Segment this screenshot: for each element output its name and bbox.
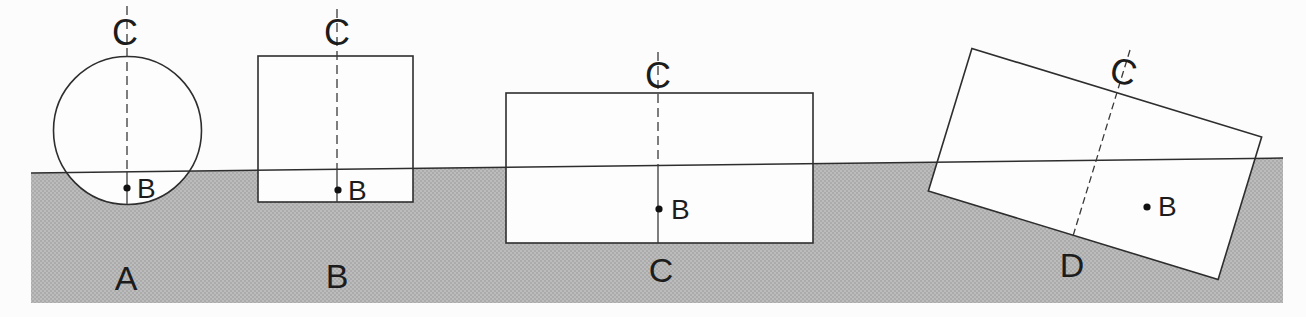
gravity-label-b: C [324, 12, 350, 53]
buoyancy-point-b [334, 186, 341, 193]
caption-a: A [115, 259, 138, 297]
caption-c: C [649, 251, 674, 289]
diagram-canvas: C C C C B B B B A B C D [0, 0, 1306, 317]
caption-d: D [1060, 246, 1085, 284]
buoyancy-label-b: B [348, 175, 367, 206]
gravity-label-a: C [112, 12, 138, 53]
gravity-label-d: C [1106, 48, 1142, 94]
buoyancy-point-d [1143, 203, 1150, 210]
buoyancy-label-c: B [671, 194, 690, 225]
buoyancy-point-a [123, 184, 130, 191]
buoyancy-label-d: B [1158, 191, 1177, 222]
buoyancy-label-a: B [137, 173, 156, 204]
gravity-label-c: C [645, 55, 671, 96]
body-c-rectangle [506, 93, 813, 243]
body-b-square [258, 56, 413, 202]
buoyancy-point-c [655, 205, 662, 212]
buoyancy-diagram: C C C C B B B B A B C D [0, 0, 1306, 317]
caption-b: B [326, 257, 349, 295]
